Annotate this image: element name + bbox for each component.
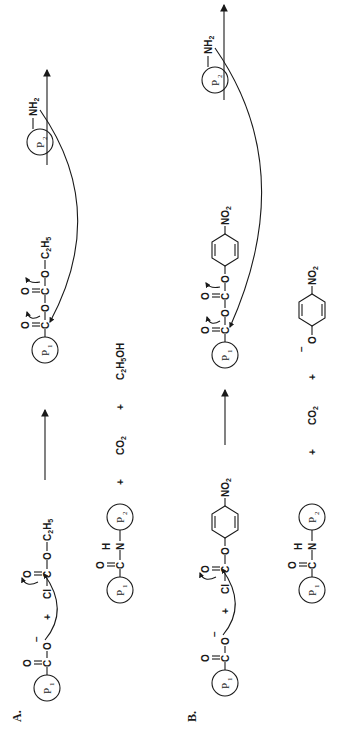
nitro-group: NO2 — [307, 266, 319, 285]
p-label: P — [209, 80, 221, 86]
plus-sign: + — [42, 614, 53, 620]
panel-a: A. P 1 C O O − + Cl C O O C2H5 P 1 C — [10, 70, 133, 722]
nitro-group: NO2 — [220, 478, 232, 497]
amine-group: NH2 — [203, 36, 215, 54]
atom-o: O — [220, 275, 231, 283]
plus-sign: + — [220, 608, 231, 614]
atom-c: C — [220, 293, 231, 300]
atom-o: O — [200, 292, 211, 300]
panel-b: B. P 1 C O O − + Cl C O O NO2 P — [185, 5, 325, 722]
ethanol-byproduct: C2H5OH — [115, 343, 127, 380]
atom-c: C — [220, 327, 231, 334]
atom-o: O — [22, 659, 33, 667]
p-sub: 1 — [313, 584, 321, 588]
curved-arrow-icon — [44, 574, 57, 640]
curved-arrow-icon — [26, 278, 40, 283]
curved-arrow-icon — [207, 317, 220, 323]
atom-c: C — [220, 655, 231, 662]
atom-o: O — [95, 561, 106, 569]
p-sub: 2 — [313, 511, 321, 515]
atom-o: O — [40, 270, 51, 278]
negative-charge: − — [31, 636, 42, 642]
p-label: P — [306, 590, 318, 596]
p-sub: 1 — [226, 349, 234, 353]
plus-sign: + — [115, 404, 126, 410]
atom-o: O — [287, 561, 298, 569]
panel-b-chloroformate: Cl C O O NO2 — [200, 478, 238, 594]
nitro-group: NO2 — [220, 206, 232, 225]
p-label: P — [41, 688, 53, 694]
plus-sign: + — [115, 479, 126, 485]
plus-sign: + — [307, 374, 318, 380]
atom-o: O — [42, 642, 53, 650]
atom-o: O — [200, 326, 211, 334]
curved-arrow-icon — [27, 312, 40, 318]
plus-sign: + — [307, 449, 318, 455]
p-sub: 2 — [216, 74, 224, 78]
panel-a-label: A. — [10, 710, 24, 722]
atom-cl: Cl — [220, 584, 231, 594]
curved-arrow-icon — [206, 283, 220, 288]
atom-c: C — [40, 322, 51, 329]
atom-o: O — [220, 637, 231, 645]
panel-a-chloroformate: Cl C O O C2H5 — [22, 519, 54, 599]
panel-b-amide-product: P 1 C O N H P 2 — [287, 504, 325, 603]
co2-byproduct: CO2 — [307, 406, 319, 425]
ethyl-group: C2H5 — [42, 519, 54, 541]
co2-byproduct: CO2 — [115, 436, 127, 455]
atom-o: O — [20, 287, 31, 295]
panel-b-nitrophenolate: − O NO2 — [296, 266, 325, 352]
atom-o: O — [22, 570, 33, 578]
p-label: P — [114, 517, 126, 523]
amine-group: NH2 — [28, 98, 40, 116]
atom-c: C — [42, 660, 53, 667]
atom-o: O — [220, 309, 231, 317]
panel-a-carboxylate: P 1 C O O − — [22, 636, 60, 701]
p-label: P — [219, 355, 231, 361]
atom-n: N — [307, 543, 318, 550]
curved-arrow-icon — [222, 569, 235, 635]
p-sub: 2 — [41, 136, 49, 140]
atom-o: O — [42, 552, 53, 560]
negative-charge: − — [209, 631, 220, 637]
p-label: P — [219, 683, 231, 689]
benzene-ring-icon — [212, 234, 238, 266]
atom-o: O — [40, 304, 51, 312]
p-sub: 1 — [46, 344, 54, 348]
benzene-ring-icon — [212, 506, 238, 538]
panel-b-carboxylate: P 1 C O O − — [200, 631, 238, 696]
negative-charge: − — [296, 346, 307, 352]
p-label: P — [39, 350, 51, 356]
panel-a-amide-product: P 1 C O N H P 2 — [95, 504, 133, 603]
p-sub: 2 — [121, 511, 129, 515]
atom-c: C — [115, 562, 126, 569]
atom-h: H — [101, 543, 112, 550]
atom-c: C — [40, 288, 51, 295]
reaction-diagram: A. P 1 C O O − + Cl C O O C2H5 P 1 C — [0, 0, 348, 730]
atom-c: C — [307, 562, 318, 569]
p-label: P — [306, 517, 318, 523]
panel-b-label: B. — [185, 711, 199, 722]
atom-h: H — [293, 543, 304, 550]
panel-a-mixed-anhydride: P 1 C O O C O O C2H5 — [20, 237, 58, 363]
atom-o: O — [220, 547, 231, 555]
p-sub: 1 — [226, 677, 234, 681]
atom-o: O — [307, 336, 318, 344]
p-label: P — [114, 590, 126, 596]
atom-cl: Cl — [42, 589, 53, 599]
p-sub: 1 — [48, 682, 56, 686]
p-label: P — [34, 142, 46, 148]
panel-a-amine: P 2 NH2 — [27, 98, 53, 155]
atom-n: N — [115, 543, 126, 550]
p-sub: 1 — [121, 584, 129, 588]
ethyl-group: C2H5 — [40, 237, 52, 259]
atom-o: O — [20, 321, 31, 329]
atom-o: O — [200, 565, 211, 573]
benzene-ring-icon — [299, 294, 325, 326]
atom-o: O — [200, 654, 211, 662]
